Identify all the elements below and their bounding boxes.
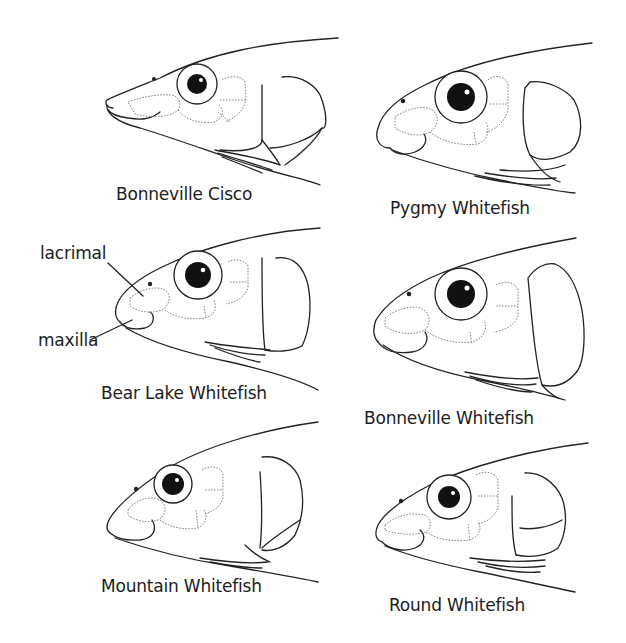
fish-head-bear-lake-whitefish xyxy=(90,228,320,390)
label-mountain-whitefish: Mountain Whitefish xyxy=(101,576,262,596)
label-round-whitefish: Round Whitefish xyxy=(389,595,525,615)
label-bonneville-whitefish: Bonneville Whitefish xyxy=(364,408,534,428)
label-bear-lake-whitefish: Bear Lake Whitefish xyxy=(101,383,267,403)
fish-head-illustrations xyxy=(0,0,626,643)
label-lacrimal: lacrimal xyxy=(40,243,106,263)
fish-head-bonneville-whitefish xyxy=(374,238,584,400)
label-bonneville-cisco: Bonneville Cisco xyxy=(116,184,252,204)
fish-head-round-whitefish xyxy=(376,443,588,592)
fish-head-mountain-whitefish xyxy=(107,422,318,582)
label-pygmy-whitefish: Pygmy Whitefish xyxy=(390,198,530,218)
label-maxilla: maxilla xyxy=(38,330,98,350)
fish-head-pygmy-whitefish xyxy=(377,43,592,193)
fish-head-bonneville-cisco xyxy=(106,38,338,185)
